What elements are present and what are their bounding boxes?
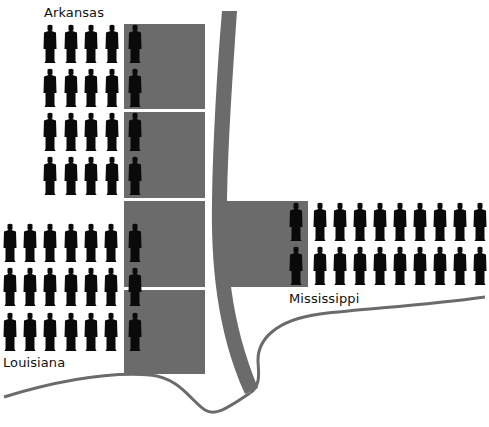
person-icon: [65, 157, 78, 195]
person-icon: [334, 203, 347, 241]
label-mississippi: Mississippi: [289, 291, 359, 306]
label-louisiana: Louisiana: [3, 355, 65, 370]
person-icon: [374, 247, 387, 285]
person-icon: [454, 247, 467, 285]
person-icon: [85, 25, 98, 63]
person-icon: [85, 224, 98, 262]
person-icon: [374, 203, 387, 241]
person-icon: [44, 157, 57, 195]
person-icon: [105, 313, 118, 351]
person-icon: [354, 203, 367, 241]
person-icon: [85, 113, 98, 151]
person-icon: [44, 313, 57, 351]
person-icon: [434, 247, 447, 285]
person-icon: [85, 268, 98, 306]
person-icon: [394, 247, 407, 285]
person-icon: [44, 25, 57, 63]
person-icon: [105, 268, 118, 306]
person-icon: [106, 157, 119, 195]
person-icon: [434, 203, 447, 241]
person-icon: [454, 203, 467, 241]
person-icon: [414, 247, 427, 285]
person-icon: [44, 113, 57, 151]
person-icon: [65, 224, 78, 262]
person-icon: [65, 113, 78, 151]
person-icon: [65, 69, 78, 107]
person-icon: [474, 247, 487, 285]
person-icon: [65, 313, 78, 351]
person-icon: [474, 203, 487, 241]
person-icon: [314, 247, 327, 285]
person-icon: [4, 313, 17, 351]
population-figures: [4, 25, 487, 351]
person-icon: [106, 113, 119, 151]
state-boundary-line: [4, 374, 250, 412]
person-icon: [44, 224, 57, 262]
person-icon: [24, 313, 37, 351]
person-icon: [394, 203, 407, 241]
person-icon: [4, 224, 17, 262]
person-icon: [354, 247, 367, 285]
person-icon: [85, 157, 98, 195]
label-arkansas: Arkansas: [44, 5, 104, 20]
person-icon: [44, 69, 57, 107]
person-icon: [106, 25, 119, 63]
figures-mississippi: [290, 203, 487, 285]
person-icon: [65, 25, 78, 63]
person-icon: [334, 247, 347, 285]
person-icon: [106, 69, 119, 107]
map-canvas: [0, 0, 489, 427]
person-icon: [314, 203, 327, 241]
person-icon: [85, 69, 98, 107]
person-icon: [24, 224, 37, 262]
isotype-map: Arkansas Louisiana Mississippi: [0, 0, 489, 427]
person-icon: [4, 268, 17, 306]
person-icon: [44, 268, 57, 306]
person-icon: [105, 224, 118, 262]
person-icon: [85, 313, 98, 351]
person-icon: [65, 268, 78, 306]
person-icon: [24, 268, 37, 306]
person-icon: [414, 203, 427, 241]
figures-louisiana: [4, 224, 142, 351]
state-boundary-line: [250, 297, 485, 393]
